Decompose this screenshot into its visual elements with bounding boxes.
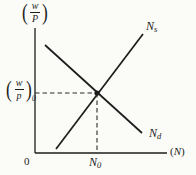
- tick-subscript: 0: [97, 160, 101, 170]
- curve-letter: N: [149, 126, 157, 140]
- y-axis-title: ( w P ): [21, 1, 49, 24]
- x-axis-title: (N): [170, 146, 185, 157]
- open-paren: (: [22, 1, 28, 24]
- close-paren: ): [181, 145, 185, 157]
- fraction-numerator: w: [14, 78, 25, 89]
- subscript-zero: 0: [32, 94, 36, 103]
- labor-demand-curve: [45, 45, 142, 133]
- equilibrium-labor-label: N0: [89, 156, 101, 169]
- curve-subscript: d: [157, 131, 161, 141]
- labor-market-diagram: ( w P ) ( w p ) 0 Ns Nd N0 0 (N): [0, 0, 196, 175]
- equilibrium-point: [94, 90, 99, 95]
- curve-subscript: s: [154, 24, 157, 34]
- fraction-denominator: P: [30, 12, 40, 24]
- curve-letter: N: [146, 19, 154, 33]
- real-wage-fraction: w P: [30, 1, 41, 24]
- close-paren: ): [42, 1, 48, 24]
- axis-letter: N: [174, 145, 181, 157]
- fraction-numerator: w: [30, 1, 41, 12]
- supply-curve-label: Ns: [146, 20, 157, 33]
- origin-label: 0: [24, 156, 30, 167]
- open-paren: (: [6, 78, 12, 101]
- demand-curve-label: Nd: [149, 127, 161, 140]
- labor-supply-curve: [56, 34, 143, 149]
- fraction-denominator: p: [15, 89, 24, 101]
- close-paren: ): [26, 78, 32, 101]
- equilibrium-wage-label: ( w p ) 0: [5, 78, 36, 101]
- tick-letter: N: [89, 155, 97, 169]
- real-wage-fraction: w p: [14, 78, 25, 101]
